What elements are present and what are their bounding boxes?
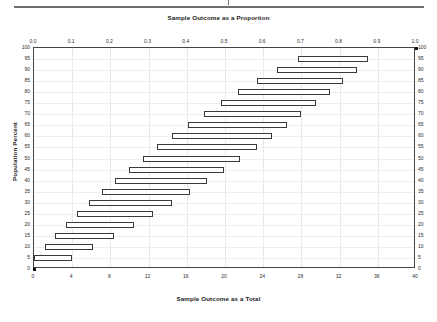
tick-label-left: 25 (16, 210, 30, 216)
tick-label-right: 70 (418, 110, 432, 116)
tick-label-left: 50 (16, 155, 30, 161)
tick-label-left: 65 (16, 121, 30, 127)
confidence-interval-bars (34, 48, 414, 267)
ci-bar (66, 222, 135, 228)
ci-bar (77, 211, 153, 217)
tick-label-top: 0.8 (329, 38, 349, 44)
ci-bar (238, 89, 330, 95)
tick-label-left: 15 (16, 232, 30, 238)
ci-bar (188, 122, 287, 128)
tick-label-bottom: 36 (367, 273, 387, 279)
tick-label-left: 80 (16, 88, 30, 94)
tick-label-right: 45 (418, 166, 432, 172)
ci-bar (204, 111, 301, 117)
tick-label-left: 45 (16, 166, 30, 172)
tick-label-left: 35 (16, 188, 30, 194)
ci-bar (34, 255, 72, 261)
tick-label-bottom: 28 (290, 273, 310, 279)
tick-label-left: 70 (16, 110, 30, 116)
header-divider-rule (14, 6, 424, 8)
ci-bar (129, 167, 225, 173)
ci-bar (115, 178, 207, 184)
top-axis-title: Sample Outcome as a Proportion (0, 14, 437, 21)
tick-label-bottom: 20 (214, 273, 234, 279)
tick-label-left: 20 (16, 221, 30, 227)
tick-label-right: 25 (418, 210, 432, 216)
tick-label-left: 100 (16, 44, 30, 50)
tick-label-right: 55 (418, 143, 432, 149)
tick-label-left: 55 (16, 143, 30, 149)
tick-label-top: 0.7 (290, 38, 310, 44)
ci-bar (157, 144, 256, 150)
tick-label-bottom: 4 (61, 273, 81, 279)
tick-label-left: 30 (16, 199, 30, 205)
tick-label-top: 0.3 (138, 38, 158, 44)
tick-label-right: 40 (418, 177, 432, 183)
tick-label-bottom: 8 (99, 273, 119, 279)
tick-label-right: 65 (418, 121, 432, 127)
tick-label-right: 35 (418, 188, 432, 194)
tick-label-top: 0.1 (61, 38, 81, 44)
ci-bar (172, 133, 271, 139)
tick-label-right: 15 (418, 232, 432, 238)
tick-label-bottom: 16 (176, 273, 196, 279)
tick-label-left: 5 (16, 254, 30, 260)
tick-label-right: 100 (418, 44, 432, 50)
tick-label-right: 75 (418, 99, 432, 105)
chart-figure: Sample Outcome as a Proportion Sample Ou… (0, 0, 437, 322)
tick-label-right: 10 (418, 243, 432, 249)
ci-bar (257, 78, 344, 84)
tick-label-left: 90 (16, 66, 30, 72)
tick-label-left: 85 (16, 77, 30, 83)
tick-label-top: 0.9 (367, 38, 387, 44)
tick-label-left: 75 (16, 99, 30, 105)
tick-label-left: 95 (16, 55, 30, 61)
tick-label-top: 0.5 (214, 38, 234, 44)
tick-label-bottom: 12 (138, 273, 158, 279)
ci-bar (102, 189, 190, 195)
tick-label-right: 20 (418, 221, 432, 227)
ci-bar (221, 100, 316, 106)
ci-bar (45, 244, 93, 250)
tick-label-right: 85 (418, 77, 432, 83)
tick-label-top: 0.4 (176, 38, 196, 44)
ci-bar (143, 156, 240, 162)
plot-area (33, 47, 415, 268)
tick-label-bottom: 24 (252, 273, 272, 279)
tick-label-bottom: 40 (405, 273, 425, 279)
tick-label-left: 40 (16, 177, 30, 183)
header-tick-mark (228, 0, 229, 5)
tick-label-top: 0.6 (252, 38, 272, 44)
tick-label-top: 0.2 (99, 38, 119, 44)
tick-label-left: 60 (16, 132, 30, 138)
ci-bar (298, 56, 369, 62)
tick-label-right: 80 (418, 88, 432, 94)
tick-label-bottom: 32 (329, 273, 349, 279)
tick-label-right: 5 (418, 254, 432, 260)
bottom-axis-title: Sample Outcome as a Total (0, 295, 437, 302)
tick-label-right: 30 (418, 199, 432, 205)
tick-label-left: 0 (16, 265, 30, 271)
tick-label-right: 50 (418, 155, 432, 161)
tick-label-left: 10 (16, 243, 30, 249)
tick-label-right: 0 (418, 265, 432, 271)
ci-bar (277, 67, 357, 73)
tick-label-right: 60 (418, 132, 432, 138)
tick-label-right: 90 (418, 66, 432, 72)
tick-label-bottom: 0 (23, 273, 43, 279)
ci-bar (89, 200, 171, 206)
ci-bar (55, 233, 114, 239)
tick-label-right: 95 (418, 55, 432, 61)
ci-point-marker (33, 268, 36, 271)
